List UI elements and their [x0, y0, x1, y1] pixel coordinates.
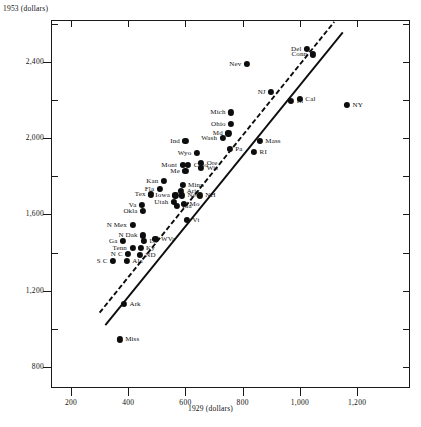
- data-point-label-wva: WVa: [161, 235, 175, 243]
- x-axis-major-tick: [357, 388, 358, 396]
- y-axis-right-tick: [403, 24, 410, 25]
- data-point-label-wis: Wis: [207, 164, 218, 172]
- figure-canvas: 1953 (dollars) DelConnNevNJIllCalNYMichO…: [0, 0, 421, 427]
- data-point-label-pa: Pa: [235, 145, 242, 153]
- x-axis-tick-label: 800: [223, 398, 263, 407]
- y-axis-minor-tick: [51, 176, 58, 177]
- y-axis-major-tick: [43, 214, 51, 215]
- data-point-label-nd: ND: [145, 251, 155, 259]
- data-point-label-me: Me: [170, 167, 180, 175]
- y-axis-major-tick: [43, 62, 51, 63]
- y-axis-tick-label: 2,400: [4, 57, 44, 66]
- faint-page-header: [150, 0, 290, 8]
- data-point-label-nev: Nev: [229, 60, 241, 68]
- y-axis-label: 1953 (dollars): [3, 4, 48, 13]
- y-axis-right-tick: [403, 214, 410, 215]
- x-axis-major-tick: [300, 388, 301, 396]
- regression-lines-layer: [51, 20, 410, 388]
- data-point-label-ohio: Ohio: [211, 120, 226, 128]
- y-axis-right-tick: [403, 62, 410, 63]
- solid-regression-line: [105, 32, 342, 325]
- x-axis-major-tick: [128, 388, 129, 396]
- x-axis-major-tick: [185, 388, 186, 396]
- y-axis-right-tick: [403, 253, 410, 254]
- data-point-label-vt: Vt: [192, 216, 199, 224]
- data-point-label-ri: RI: [260, 148, 267, 156]
- y-axis-minor-tick: [51, 24, 58, 25]
- data-point-label-wyo: Wyo: [178, 149, 192, 157]
- y-axis-right-tick: [403, 291, 410, 292]
- x-axis-tick-label: 200: [51, 398, 91, 407]
- x-axis-top-tick: [300, 20, 301, 27]
- x-axis-top-tick: [243, 20, 244, 27]
- y-axis-tick-label: 1,200: [4, 286, 44, 295]
- x-axis-major-tick: [71, 388, 72, 396]
- x-axis-top-tick: [128, 20, 129, 27]
- y-axis-tick-label: 1,600: [4, 209, 44, 218]
- y-axis-tick-label: 800: [4, 362, 44, 371]
- data-point-label-nj: NJ: [258, 88, 266, 96]
- x-axis-top-tick: [185, 20, 186, 27]
- data-point-label-n-mex: N Mex: [107, 221, 127, 229]
- y-axis-minor-tick: [51, 100, 58, 101]
- data-point-label-mich: Mich: [210, 108, 225, 116]
- data-point-label-cal: Cal: [305, 95, 315, 103]
- y-axis-major-tick: [43, 291, 51, 292]
- data-point-label-miss: Miss: [125, 335, 139, 343]
- data-point-label-okla: Okla: [123, 207, 137, 215]
- data-point-label-utah: Utah: [154, 198, 168, 206]
- x-axis-major-tick: [243, 388, 244, 396]
- x-axis-tick-label: 1,000: [280, 398, 320, 407]
- data-point-label-conn: Conn: [291, 50, 307, 58]
- y-axis-right-tick: [403, 176, 410, 177]
- y-axis-major-tick: [43, 138, 51, 139]
- y-axis-major-tick: [43, 367, 51, 368]
- y-axis-tick-label: 2,000: [4, 133, 44, 142]
- x-axis-top-tick: [357, 20, 358, 27]
- data-point-label-n-c: N C: [111, 250, 123, 258]
- data-point-label-nh: NH: [205, 191, 215, 199]
- y-axis-right-tick: [403, 138, 410, 139]
- y-axis-right-tick: [403, 367, 410, 368]
- data-point-label-ala: Ala: [132, 257, 143, 265]
- data-point-label-wash: Wash: [201, 134, 217, 142]
- data-point-label-ny: NY: [353, 101, 363, 109]
- x-axis-top-tick: [71, 20, 72, 27]
- x-axis-tick-label: 1,200: [337, 398, 377, 407]
- data-point-label-ark: Ark: [129, 300, 140, 308]
- y-axis-right-tick: [403, 100, 410, 101]
- x-axis-tick-label: 400: [108, 398, 148, 407]
- data-point-label-mass: Mass: [265, 137, 280, 145]
- data-point-label-s-c: S C: [97, 257, 108, 265]
- x-axis-tick-label: 600: [165, 398, 205, 407]
- y-axis-minor-tick: [51, 253, 58, 254]
- y-axis-minor-tick: [51, 329, 58, 330]
- data-point-label-tex: Tex: [135, 190, 146, 198]
- data-point-label-ind: Ind: [170, 137, 180, 145]
- data-point-label-ida: Ida: [182, 202, 191, 210]
- plot-area: DelConnNevNJIllCalNYMichOhioMdWashIndMas…: [51, 20, 410, 388]
- y-axis-right-tick: [403, 329, 410, 330]
